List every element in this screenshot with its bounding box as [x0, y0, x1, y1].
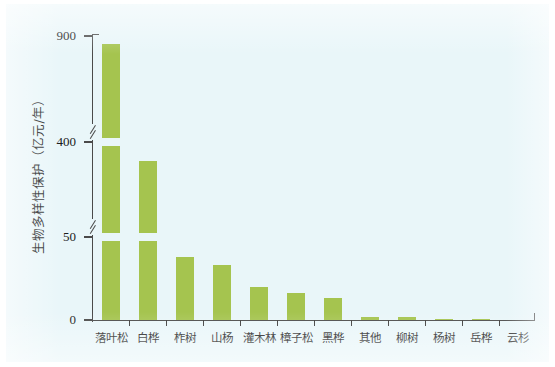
x-tick-2: [203, 320, 204, 326]
x-tick-6: [351, 320, 352, 326]
y-axis-top-cap: [92, 34, 99, 35]
bar-杨树: [435, 319, 453, 320]
y-tick-label-0: 0: [40, 313, 76, 326]
bar-柳树: [398, 317, 416, 320]
chart-plate: 050400900 落叶松白桦柞树山杨灌木林樟子松黑桦其他柳树杨树岳桦云杉 生物…: [6, 4, 549, 362]
bar-柞树: [176, 257, 194, 320]
axis-break-1: [86, 219, 99, 235]
y-axis-line: [92, 34, 93, 322]
x-tick-5: [314, 320, 315, 326]
x-axis-end-cap: [534, 313, 535, 321]
bar-其他: [361, 317, 379, 320]
x-tick-0: [129, 320, 130, 326]
x-axis-label-云杉: 云杉: [494, 333, 542, 345]
x-tick-4: [277, 320, 278, 326]
x-tick-1: [166, 320, 167, 326]
bar-山杨: [213, 265, 231, 320]
y-tick-900: [84, 35, 92, 36]
y-tick-400: [84, 141, 92, 142]
bar-白桦-seg2: [139, 161, 157, 233]
axis-break-2: [86, 124, 99, 140]
chart-figure: 050400900 落叶松白桦柞树山杨灌木林樟子松黑桦其他柳树杨树岳桦云杉 生物…: [0, 0, 555, 367]
y-tick-50: [84, 236, 92, 237]
x-tick-7: [388, 320, 389, 326]
bar-黑桦: [324, 298, 342, 320]
bar-落叶松-seg3: [102, 44, 120, 138]
bar-灌木林: [250, 287, 268, 320]
x-tick-3: [240, 320, 241, 326]
y-axis-title: 生物多样性保护（亿元/年）: [28, 69, 47, 279]
bar-落叶松-seg2: [102, 146, 120, 233]
bar-白桦-seg1: [139, 241, 157, 320]
x-tick-8: [425, 320, 426, 326]
x-tick-10: [499, 320, 500, 326]
y-tick-label-900: 900: [40, 29, 76, 42]
x-tick-9: [462, 320, 463, 326]
bar-樟子松: [287, 293, 305, 320]
bar-落叶松-seg1: [102, 241, 120, 320]
y-tick-0: [84, 319, 92, 320]
bar-岳桦: [472, 319, 490, 320]
